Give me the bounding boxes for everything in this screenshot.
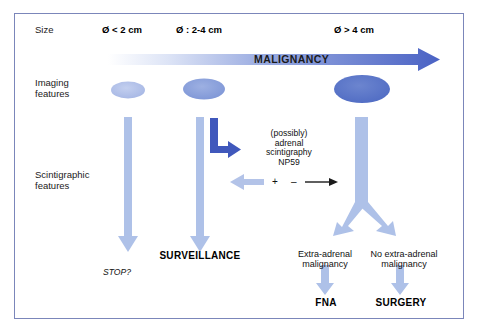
- row-label-imaging: Imaging features: [35, 78, 69, 99]
- outcome-surgery: SURGERY: [367, 297, 435, 308]
- outcome-surveillance: SURVEILLANCE: [139, 250, 261, 261]
- size-header-medium: Ø : 2-4 cm: [176, 25, 222, 36]
- size-header-small: Ø < 2 cm: [102, 25, 142, 36]
- outcome-fna: FNA: [300, 297, 352, 308]
- outcome-stop: STOP?: [103, 268, 131, 278]
- scintigraphy-positive-sign: +: [272, 176, 278, 187]
- scintigraphy-negative-sign: –: [291, 176, 297, 187]
- size-header-large: Ø > 4 cm: [334, 25, 374, 36]
- figure-canvas: Size Imaging features Scintigraphic feat…: [0, 0, 480, 335]
- figure-frame: [14, 13, 464, 319]
- malignancy-arrow-label: MALIGNANCY: [254, 54, 329, 66]
- outcome-extra-adrenal: Extra-adrenal malignancy: [284, 249, 366, 269]
- row-label-scintigraphic: Scintigraphic features: [35, 170, 89, 191]
- scintigraphy-note: (possibly) adrenal scintigraphy NP59: [248, 129, 330, 168]
- row-label-size: Size: [35, 25, 53, 36]
- outcome-no-extra-adrenal: No extra-adrenal malignancy: [358, 249, 450, 269]
